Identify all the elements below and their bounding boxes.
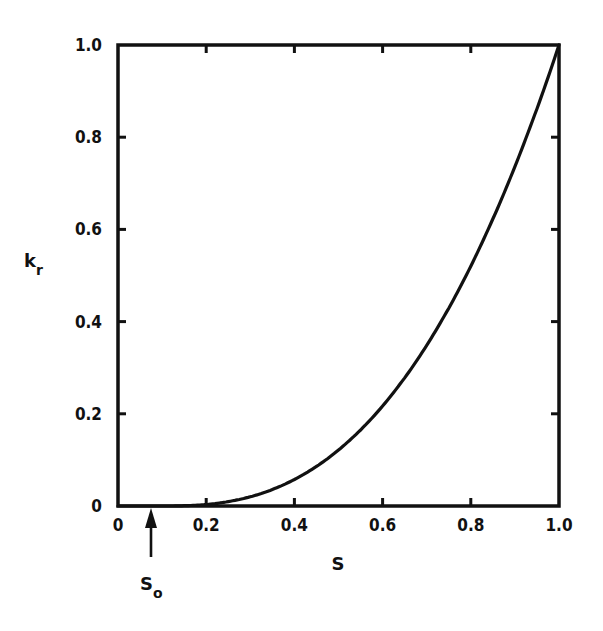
y-tick-label: 0.4 <box>75 312 102 332</box>
x-tick-label: 0.6 <box>369 515 396 535</box>
plot-frame <box>118 45 559 506</box>
s0-label: So <box>140 573 163 601</box>
y-tick-labels: 00.20.40.60.81.0 <box>75 35 102 516</box>
y-tick-label: 0.8 <box>75 127 102 147</box>
s0-annotation: So <box>140 508 163 601</box>
x-tick-label: 0.2 <box>193 515 220 535</box>
x-tick-label: 0.8 <box>457 515 484 535</box>
x-tick-label: 0 <box>113 515 124 535</box>
y-tick-label: 1.0 <box>75 35 102 55</box>
y-tick-label: 0.2 <box>75 404 102 424</box>
x-tick-labels: 00.20.40.60.81.0 <box>113 515 573 535</box>
axis-ticks <box>118 45 559 506</box>
relative-permeability-chart: 00.20.40.60.81.0 00.20.40.60.81.0 kr S S… <box>0 0 603 631</box>
y-axis-title: kr <box>24 250 43 278</box>
x-tick-label: 0.4 <box>281 515 308 535</box>
y-tick-label: 0 <box>91 496 102 516</box>
y-tick-label: 0.6 <box>75 219 102 239</box>
x-tick-label: 1.0 <box>545 515 572 535</box>
x-axis-title: S <box>332 553 345 574</box>
kr-curve <box>118 45 559 506</box>
arrow-up-icon <box>145 508 157 528</box>
